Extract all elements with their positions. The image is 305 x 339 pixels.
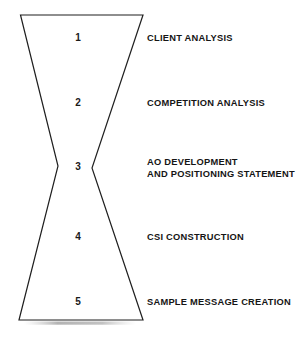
- stage-number-1: 1: [63, 32, 93, 43]
- stage-number-2: 2: [63, 97, 93, 108]
- stage-number-4: 4: [63, 231, 93, 242]
- stage-label-2: COMPETITION ANALYSIS: [147, 98, 265, 110]
- hourglass-process-diagram: 1 CLIENT ANALYSIS 2 COMPETITION ANALYSIS…: [0, 0, 305, 339]
- stage-number-3: 3: [63, 161, 93, 172]
- stage-label-4: CSI CONSTRUCTION: [147, 232, 244, 244]
- stage-number-5: 5: [63, 296, 93, 307]
- stage-label-5: SAMPLE MESSAGE CREATION: [147, 297, 291, 309]
- base-shadow: [24, 322, 136, 325]
- stage-label-1: CLIENT ANALYSIS: [147, 33, 233, 45]
- stage-label-3: AO DEVELOPMENT AND POSITIONING STATEMENT: [147, 157, 295, 180]
